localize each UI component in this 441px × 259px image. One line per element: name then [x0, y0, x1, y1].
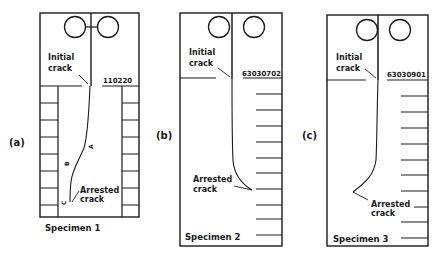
initial-crack-arrow-icon	[79, 75, 88, 84]
panel-label-c: (c)	[302, 130, 317, 141]
arrested-crack-arrow-icon	[72, 191, 79, 202]
specimen-1-crack-path	[70, 86, 90, 202]
specimen-caption: Specimen 1	[45, 223, 101, 233]
specimen-caption: Specimen 2	[185, 232, 241, 242]
specimen-2-tick-marks	[256, 94, 282, 235]
initial-crack-arrow-icon	[365, 69, 376, 78]
crack-specimens-diagram: Initial crack 110220 A B C Arrested crac…	[0, 0, 441, 259]
initial-crack-arrow-icon	[218, 68, 230, 77]
path-marker-b: B	[63, 161, 70, 166]
specimen-1-left-cell-strip	[40, 86, 58, 217]
pin-hole-right-icon	[390, 20, 411, 41]
arrested-crack-label-2: crack	[193, 185, 218, 194]
panel-label-a: (a)	[9, 137, 25, 148]
specimen-3-crack-path	[353, 80, 378, 192]
panel-label-b: (b)	[156, 130, 172, 141]
initial-crack-label-2: crack	[189, 59, 214, 68]
initial-crack-label-2: crack	[336, 64, 361, 73]
pin-hole-left-icon	[65, 17, 86, 38]
arrested-crack-label: Arrested	[80, 186, 120, 195]
specimen-1-right-cell-strip	[122, 86, 139, 217]
specimen-code: 63030702	[242, 70, 281, 78]
specimen-2: Initial crack 63030702 Arrested crack (b…	[156, 13, 282, 246]
initial-crack-label: Initial	[336, 53, 362, 62]
specimen-1: Initial crack 110220 A B C Arrested crac…	[9, 13, 139, 233]
arrested-crack-label-2: crack	[371, 209, 396, 218]
path-marker-c: C	[60, 200, 67, 205]
initial-crack-label: Initial	[48, 53, 74, 62]
pin-hole-right-icon	[244, 17, 265, 38]
specimen-code: 110220	[103, 77, 132, 85]
initial-crack-label: Initial	[189, 48, 215, 57]
specimen-caption: Specimen 3	[333, 234, 389, 244]
specimen-code: 63030901	[387, 71, 426, 79]
pin-hole-left-icon	[357, 20, 378, 41]
arrested-crack-arrow-icon	[353, 192, 368, 200]
arrested-crack-label: Arrested	[193, 175, 233, 184]
specimen-3: Initial crack 63030901 Arrested crack (c…	[302, 15, 428, 246]
initial-crack-label-2: crack	[48, 64, 73, 73]
specimen-3-tick-marks	[401, 96, 428, 238]
pin-hole-right-icon	[98, 17, 119, 38]
pin-hole-left-icon	[209, 17, 230, 38]
arrested-crack-label-2: crack	[80, 195, 105, 204]
arrested-crack-label: Arrested	[371, 200, 411, 209]
specimen-2-crack-path	[232, 79, 252, 190]
path-marker-a: A	[87, 144, 94, 149]
